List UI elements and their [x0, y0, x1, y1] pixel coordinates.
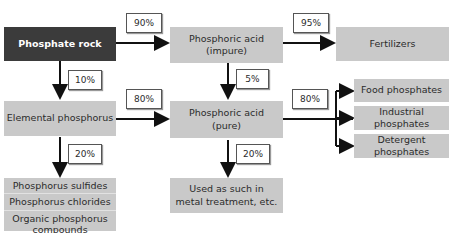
- phosphorus-products-node: Phosphorus sulfides Phosphorus chlorides…: [4, 178, 116, 231]
- flow-label-rock-to-elemental: 10%: [68, 70, 102, 90]
- flow-label-impure-to-pure: 5%: [236, 69, 269, 89]
- node-label: Detergent phosphates: [354, 134, 449, 159]
- node-label: (pure): [212, 120, 241, 132]
- phosphoric-acid-pure-node: Phosphoric acid (pure): [170, 101, 283, 138]
- flow-label-elemental-to-products: 20%: [68, 144, 102, 164]
- node-label: Fertilizers: [369, 38, 415, 50]
- product-item: Phosphorus sulfides: [4, 178, 116, 194]
- elemental-phosphorus-node: Elemental phosphorus: [4, 101, 116, 136]
- node-label: Elemental phosphorus: [7, 112, 113, 124]
- flow-label-pure-to-metal: 20%: [236, 144, 270, 164]
- node-label: Phosphoric acid: [189, 33, 264, 45]
- product-item: Phosphorus chlorides: [4, 194, 116, 210]
- phosphate-rock-node: Phosphate rock: [4, 27, 116, 61]
- industrial-phosphates-node: Industrial phosphates: [354, 106, 449, 130]
- flow-label-impure-to-fertilizers: 95%: [293, 13, 329, 33]
- node-label: Phosphoric acid: [189, 107, 264, 119]
- node-label: Industrial phosphates: [354, 106, 449, 131]
- detergent-phosphates-node: Detergent phosphates: [354, 134, 449, 158]
- node-label: Phosphate rock: [18, 38, 101, 50]
- food-phosphates-node: Food phosphates: [354, 79, 449, 102]
- flow-label-elemental-to-pure: 80%: [126, 89, 162, 109]
- flow-label-pure-to-phosphates: 80%: [292, 89, 328, 109]
- phosphoric-acid-impure-node: Phosphoric acid (impure): [170, 27, 283, 63]
- node-label: (impure): [206, 45, 247, 57]
- node-label: Food phosphates: [361, 84, 442, 96]
- product-item: Organic phosphorus compounds: [4, 211, 116, 233]
- metal-treatment-node: Used as such in metal treatment, etc.: [170, 178, 283, 213]
- node-label: metal treatment, etc.: [176, 196, 278, 208]
- flow-label-rock-to-impure: 90%: [126, 13, 162, 33]
- fertilizers-node: Fertilizers: [336, 27, 449, 61]
- node-label: Used as such in: [189, 183, 263, 195]
